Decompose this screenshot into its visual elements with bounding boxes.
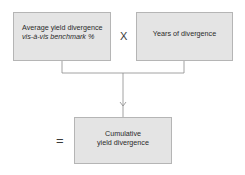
- years-of-divergence-box: Years of divergence: [136, 12, 233, 61]
- cumulative-label: Cumulative: [105, 129, 141, 138]
- average-yield-divergence-box: Average yield divergence vis-à-vis bench…: [13, 12, 111, 61]
- years-label: Years of divergence: [153, 29, 216, 38]
- equals-operator: =: [56, 135, 64, 146]
- arrow-head-icon: [120, 102, 126, 106]
- cumulative-yield-divergence-box: Cumulative yield divergence: [74, 117, 172, 164]
- yield-divergence-label: yield divergence: [97, 138, 149, 147]
- merge-connector: [62, 61, 184, 73]
- average-yield-label: Average yield divergence: [22, 23, 103, 32]
- benchmark-label: vis-à-vis benchmark %: [22, 32, 94, 41]
- multiply-operator: X: [120, 31, 127, 42]
